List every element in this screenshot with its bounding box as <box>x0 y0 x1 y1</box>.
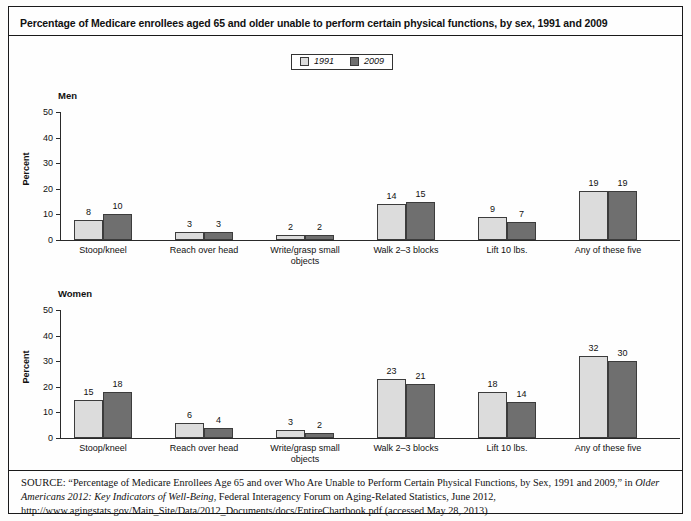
y-tick-label-10: 10 <box>32 210 53 219</box>
x-axis-line-men <box>60 240 680 241</box>
bar-group: 64Reach over head <box>175 310 233 438</box>
bar-group: 1518Stoop/kneel <box>74 310 132 438</box>
page-title: Percentage of Medicare enrollees aged 65… <box>20 17 670 30</box>
bar-pair: 32 <box>276 310 334 438</box>
bar-value-label: 8 <box>86 208 91 217</box>
bar-group: 97Lift 10 lbs. <box>478 112 536 240</box>
y-tick-40 <box>56 138 60 139</box>
bar-group: 1919Any of these five <box>579 112 637 240</box>
bar-group: 1415Walk 2–3 blocks <box>377 112 435 240</box>
chart-legend: 1991 2009 <box>291 54 393 70</box>
y-tick-label-40: 40 <box>32 134 53 143</box>
bar-1991[interactable]: 3 <box>175 232 204 240</box>
legend-swatch-icon-1991 <box>300 57 309 66</box>
bar-2009[interactable]: 15 <box>406 202 435 240</box>
bar-value-label: 2 <box>317 421 322 430</box>
y-tick-20 <box>56 387 60 388</box>
y-tick-label-20: 20 <box>32 185 53 194</box>
bar-value-label: 30 <box>617 349 627 358</box>
source-text-a: “Percentage of Medicare Enrollees Age 65… <box>66 477 635 488</box>
x-category-label: Lift 10 lbs. <box>459 245 555 256</box>
bar-1991[interactable]: 19 <box>579 191 608 240</box>
bar-value-label: 6 <box>187 411 192 420</box>
bar-2009[interactable]: 21 <box>406 384 435 438</box>
y-tick-0 <box>56 240 60 241</box>
bar-value-label: 21 <box>415 372 425 381</box>
bar-pair: 1814 <box>478 310 536 438</box>
x-category-label: Any of these five <box>560 245 656 256</box>
bar-pair: 3230 <box>579 310 637 438</box>
legend-item-1991[interactable]: 1991 <box>300 57 334 66</box>
x-category-label: Write/grasp small objects <box>257 443 353 465</box>
panel-title-women: Women <box>58 288 92 299</box>
bar-1991[interactable]: 2 <box>276 235 305 240</box>
bar-1991[interactable]: 32 <box>579 356 608 438</box>
x-category-label: Write/grasp small objects <box>257 245 353 267</box>
bar-group: 33Reach over head <box>175 112 233 240</box>
y-tick-label-30: 30 <box>32 357 53 366</box>
bar-value-label: 32 <box>588 344 598 353</box>
plot-area-women: 01020304050 1518Stoop/kneel64Reach over … <box>60 310 680 439</box>
bar-pair: 64 <box>175 310 233 438</box>
bar-group: 3230Any of these five <box>579 310 637 438</box>
panel-men: Men Percent 01020304050 810Stoop/kneel33… <box>0 90 691 280</box>
bar-value-label: 2 <box>288 223 293 232</box>
y-tick-10 <box>56 214 60 215</box>
x-axis-line-women <box>60 438 680 439</box>
y-tick-label-0: 0 <box>32 236 53 245</box>
bar-value-label: 3 <box>288 418 293 427</box>
bar-2009[interactable]: 7 <box>507 222 536 240</box>
bar-2009[interactable]: 2 <box>305 235 334 240</box>
bar-value-label: 15 <box>415 190 425 199</box>
legend-swatch-icon-2009 <box>350 57 359 66</box>
bar-group: 2321Walk 2–3 blocks <box>377 310 435 438</box>
bar-value-label: 10 <box>112 202 122 211</box>
y-tick-label-40: 40 <box>32 332 53 341</box>
legend-item-2009[interactable]: 2009 <box>350 57 384 66</box>
x-category-label: Lift 10 lbs. <box>459 443 555 454</box>
bar-value-label: 15 <box>83 388 93 397</box>
y-tick-0 <box>56 438 60 439</box>
bar-1991[interactable]: 3 <box>276 430 305 438</box>
bar-1991[interactable]: 14 <box>377 204 406 240</box>
bar-2009[interactable]: 2 <box>305 433 334 438</box>
bar-1991[interactable]: 6 <box>175 423 204 438</box>
bar-1991[interactable]: 18 <box>478 392 507 438</box>
panel-title-men: Men <box>58 90 77 101</box>
bar-value-label: 14 <box>516 390 526 399</box>
bar-value-label: 19 <box>617 179 627 188</box>
bar-value-label: 3 <box>216 220 221 229</box>
source-divider <box>9 470 682 471</box>
bar-2009[interactable]: 18 <box>103 392 132 438</box>
title-divider <box>9 35 682 36</box>
bar-1991[interactable]: 8 <box>74 220 103 240</box>
bar-2009[interactable]: 19 <box>608 191 637 240</box>
bar-pair: 1518 <box>74 310 132 438</box>
bar-group: 810Stoop/kneel <box>74 112 132 240</box>
bar-1991[interactable]: 9 <box>478 217 507 240</box>
x-category-label: Reach over head <box>156 443 252 454</box>
bar-group: 22Write/grasp small objects <box>276 112 334 240</box>
bar-value-label: 2 <box>317 223 322 232</box>
y-tick-40 <box>56 336 60 337</box>
bar-2009[interactable]: 14 <box>507 402 536 438</box>
bar-value-label: 4 <box>216 416 221 425</box>
y-axis-line-women <box>60 310 61 439</box>
y-tick-label-10: 10 <box>32 408 53 417</box>
bar-2009[interactable]: 4 <box>204 428 233 438</box>
bar-value-label: 14 <box>386 192 396 201</box>
x-category-label: Walk 2–3 blocks <box>358 245 454 256</box>
bar-group: 32Write/grasp small objects <box>276 310 334 438</box>
y-tick-30 <box>56 361 60 362</box>
y-tick-label-50: 50 <box>32 306 53 315</box>
figure-root: Percentage of Medicare enrollees aged 65… <box>0 0 691 521</box>
bar-value-label: 3 <box>187 220 192 229</box>
bar-1991[interactable]: 15 <box>74 400 103 438</box>
bar-pair: 2321 <box>377 310 435 438</box>
bar-2009[interactable]: 30 <box>608 361 637 438</box>
bar-2009[interactable]: 10 <box>103 214 132 240</box>
bar-2009[interactable]: 3 <box>204 232 233 240</box>
bar-1991[interactable]: 23 <box>377 379 406 438</box>
y-axis-line-men <box>60 112 61 241</box>
x-category-label: Any of these five <box>560 443 656 454</box>
